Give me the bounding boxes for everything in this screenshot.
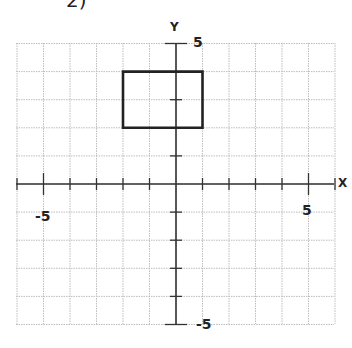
axes <box>16 43 335 325</box>
x-axis-label: X <box>338 176 347 190</box>
x-tick-label-5: 5 <box>302 202 312 218</box>
y-tick-label-neg5: -5 <box>196 316 212 332</box>
y-axis-label: Y <box>170 20 179 34</box>
coordinate-plane <box>0 0 352 348</box>
x-tick-label-neg5: -5 <box>35 208 51 224</box>
y-tick-label-5: 5 <box>193 34 203 50</box>
